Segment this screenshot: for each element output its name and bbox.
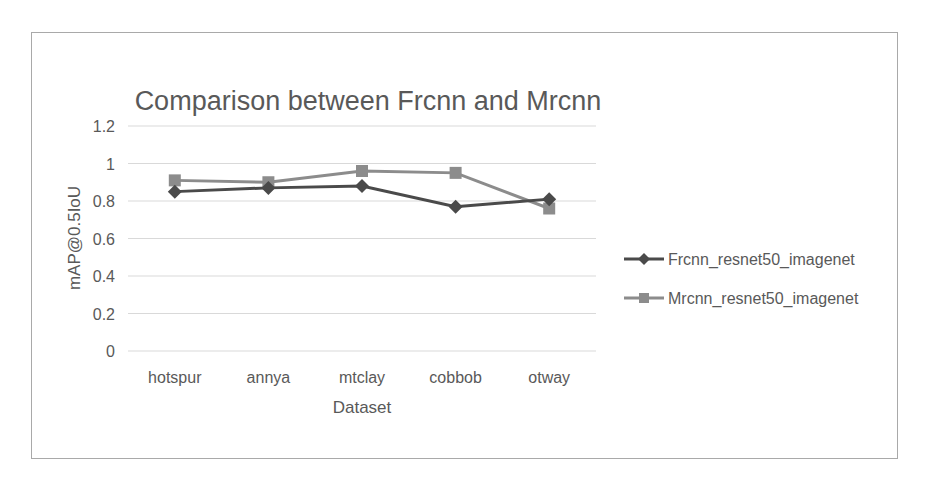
square-marker-icon	[639, 293, 649, 303]
y-tick-label: 0.2	[93, 306, 115, 323]
legend: Frcnn_resnet50_imagenet Mrcnn_resnet50_i…	[624, 251, 859, 308]
diamond-marker-icon	[168, 185, 182, 199]
y-tick-label: 0.8	[93, 193, 115, 210]
diamond-marker-icon	[449, 200, 463, 214]
y-tick-label: 1	[106, 156, 115, 173]
x-tick-label: annya	[247, 369, 291, 386]
square-marker-icon	[169, 174, 181, 186]
legend-label-frcnn: Frcnn_resnet50_imagenet	[668, 251, 855, 269]
series-frcnn-resnet50-imagenet	[168, 179, 556, 214]
x-tick-label: otway	[528, 369, 570, 386]
y-tick-label: 0.6	[93, 231, 115, 248]
x-axis-ticks: hotspurannyamtclaycobbobotway	[148, 369, 570, 386]
line-chart: Comparison between Frcnn and Mrcnn 00.20…	[0, 0, 930, 485]
x-tick-label: cobbob	[429, 369, 482, 386]
y-tick-label: 0	[106, 343, 115, 360]
legend-item-frcnn: Frcnn_resnet50_imagenet	[624, 251, 855, 269]
y-axis-ticks: 00.20.40.60.811.2	[93, 118, 115, 360]
legend-item-mrcnn: Mrcnn_resnet50_imagenet	[624, 290, 859, 308]
x-axis-label: Dataset	[333, 398, 392, 417]
y-tick-label: 0.4	[93, 268, 115, 285]
y-tick-label: 1.2	[93, 118, 115, 135]
square-marker-icon	[450, 167, 462, 179]
gridlines	[128, 126, 596, 351]
x-tick-label: mtclay	[339, 369, 385, 386]
diamond-marker-icon	[638, 253, 650, 265]
y-axis-label: mAP@0.5IoU	[65, 186, 84, 290]
series-layer	[168, 165, 556, 215]
x-tick-label: hotspur	[148, 369, 202, 386]
legend-label-mrcnn: Mrcnn_resnet50_imagenet	[668, 290, 859, 308]
square-marker-icon	[356, 165, 368, 177]
diamond-marker-icon	[355, 179, 369, 193]
chart-title: Comparison between Frcnn and Mrcnn	[135, 86, 602, 116]
